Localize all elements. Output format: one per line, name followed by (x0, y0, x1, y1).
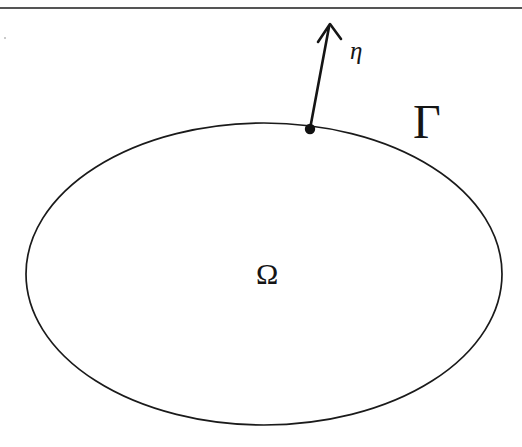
domain-boundary-diagram (0, 0, 522, 447)
domain-label-omega: Ω (256, 259, 278, 289)
figure-background (0, 0, 522, 447)
figure-page: Γ Ω η (0, 0, 522, 447)
boundary-point-dot (305, 124, 315, 134)
boundary-label-gamma: Γ (413, 98, 441, 146)
normal-label-eta: η (350, 38, 362, 63)
scan-speck-artifact (4, 37, 6, 39)
